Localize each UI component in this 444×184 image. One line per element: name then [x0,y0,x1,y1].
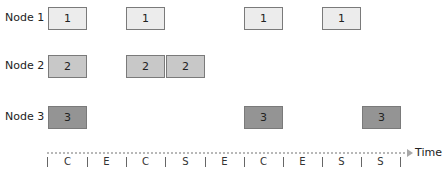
time-axis-title: Time [415,146,442,160]
axis-segment-label: E [87,156,126,168]
node-1-task-box: 1 [48,7,87,30]
node-1-task-box: 1 [322,7,361,30]
axis-segment-label: C [126,156,165,168]
node-2-task-box: 2 [126,55,165,78]
axis-segment-label: C [48,156,87,168]
node-3-task-box: 3 [362,106,401,129]
node-1-task-box: 1 [126,7,165,30]
node-2-task-box: 2 [48,55,87,78]
axis-segment-label: S [322,156,361,168]
axis-segment-label: S [361,156,400,168]
axis-segment-label: E [205,156,244,168]
axis-tick [400,157,401,167]
row-label-node-1: Node 1 [5,11,44,25]
row-label-node-2: Node 2 [5,59,44,73]
time-axis-line [47,152,409,154]
time-axis-arrow-icon [407,149,413,157]
node-3-task-box: 3 [48,106,87,129]
node-3-task-box: 3 [244,106,283,129]
node-1-task-box: 1 [244,7,283,30]
axis-segment-label: C [244,156,283,168]
node-2-task-box: 2 [166,55,205,78]
axis-segment-label: E [283,156,322,168]
row-label-node-3: Node 3 [5,110,44,124]
axis-segment-label: S [166,156,205,168]
